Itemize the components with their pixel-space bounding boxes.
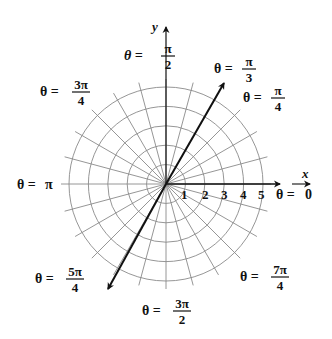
y-axis-label: y — [150, 19, 158, 34]
svg-text:2: 2 — [179, 312, 186, 327]
grid-spoke — [65, 157, 166, 184]
svg-text:4: 4 — [72, 280, 79, 295]
grid-spoke — [139, 83, 166, 184]
svg-text:θ =: θ = — [240, 269, 259, 284]
label-theta-0: θ = 0 — [276, 187, 312, 202]
svg-text:π: π — [45, 177, 53, 192]
svg-text:5π: 5π — [68, 264, 82, 279]
polar-grid-diagram: y x 1 2 3 4 5 θ = π 2 θ = π 3 θ = π 4 θ … — [0, 0, 332, 339]
svg-text:π: π — [245, 54, 252, 69]
label-theta-pi: θ = π — [17, 177, 53, 192]
x-axis-label: x — [301, 166, 309, 181]
grid-spoke — [65, 184, 166, 211]
grid-spoke — [166, 157, 267, 184]
ray-theta-pi-3 — [166, 83, 224, 184]
grid-spoke — [139, 184, 166, 285]
svg-text:4: 4 — [277, 278, 284, 293]
svg-text:4: 4 — [275, 99, 282, 114]
tick-2: 2 — [202, 187, 209, 202]
svg-text:θ =: θ = — [124, 48, 143, 63]
tick-5: 5 — [258, 187, 265, 202]
svg-text:θ =: θ = — [35, 271, 54, 286]
label-theta-5pi-4: θ = 5π 4 — [35, 264, 84, 295]
svg-text:2: 2 — [165, 57, 172, 72]
svg-text:7π: 7π — [273, 262, 287, 277]
svg-text:3π: 3π — [175, 296, 189, 311]
tick-4: 4 — [240, 187, 247, 202]
svg-text:3π: 3π — [74, 77, 88, 92]
label-theta-pi-3: θ = π 3 — [214, 54, 256, 85]
ray-theta-4pi-3 — [108, 184, 166, 289]
svg-text:θ =: θ = — [214, 61, 233, 76]
svg-text:0: 0 — [305, 187, 312, 202]
svg-text:π: π — [164, 41, 171, 56]
tick-1: 1 — [181, 187, 188, 202]
label-theta-3pi-2: θ = 3π 2 — [142, 296, 191, 327]
label-theta-pi-4: θ = π 4 — [243, 83, 285, 114]
svg-text:4: 4 — [78, 93, 85, 108]
label-theta-3pi-4: θ = 3π 4 — [40, 77, 90, 108]
svg-text:3: 3 — [246, 70, 253, 85]
svg-text:θ =: θ = — [276, 187, 295, 202]
svg-text:π: π — [274, 83, 281, 98]
grid-spoke — [166, 83, 193, 184]
svg-text:θ =: θ = — [40, 84, 59, 99]
svg-text:θ =: θ = — [243, 90, 262, 105]
grid-spoke — [166, 184, 193, 285]
tick-3: 3 — [221, 187, 228, 202]
svg-text:θ =: θ = — [142, 303, 161, 318]
label-theta-pi-2: θ = π 2 — [124, 41, 175, 72]
label-theta-7pi-4: θ = 7π 4 — [240, 262, 289, 293]
svg-text:θ =: θ = — [17, 177, 36, 192]
